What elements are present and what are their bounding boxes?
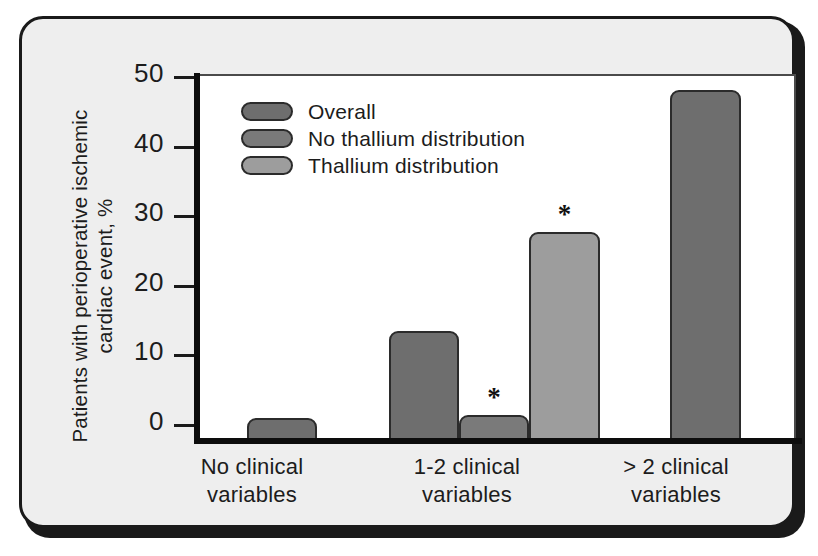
legend-swatch-thallium-distribution — [241, 156, 293, 175]
y-tick-10 — [174, 354, 196, 357]
x-axis-label-line-2: variables — [162, 481, 342, 509]
y-axis-title-line-1: Patients with perioperative ischemic — [67, 66, 92, 486]
chart-legend: Overall No thallium distribution Thalliu… — [241, 99, 525, 180]
bar-overall-1-2-clinical-variables — [389, 331, 459, 441]
legend-label-no-thallium-distribution: No thallium distribution — [308, 128, 525, 149]
y-tick-label-10: 10 — [104, 338, 164, 364]
y-tick-label-20: 20 — [104, 269, 164, 295]
bar-thallium-distribution-1-2-clinical-variables — [529, 232, 600, 441]
y-tick-label-40: 40 — [104, 130, 164, 156]
x-axis-label-1-2-clinical-variables: 1-2 clinical variables — [377, 453, 557, 509]
x-axis-label-line-1: 1-2 clinical — [377, 453, 557, 481]
y-tick-0 — [174, 424, 196, 427]
chart-panel: Patients with perioperative ischemic car… — [19, 16, 795, 528]
significance-asterisk-no-thallium: * — [459, 384, 529, 411]
bar-overall-gt-2-clinical-variables — [670, 90, 741, 441]
legend-item-thallium-distribution: Thallium distribution — [241, 153, 525, 178]
chart-figure: Patients with perioperative ischemic car… — [0, 0, 818, 556]
legend-item-overall: Overall — [241, 99, 525, 124]
x-axis-label-line-1: No clinical — [162, 453, 342, 481]
legend-item-no-thallium-distribution: No thallium distribution — [241, 126, 525, 151]
x-axis-label-line-2: variables — [377, 481, 557, 509]
x-axis-label-no-clinical-variables: No clinical variables — [162, 453, 342, 509]
y-axis-spine — [194, 73, 200, 444]
x-axis-label-line-2: variables — [586, 481, 766, 509]
y-tick-label-50: 50 — [104, 60, 164, 86]
y-tick-30 — [174, 215, 196, 218]
y-tick-50 — [174, 76, 196, 79]
y-tick-40 — [174, 146, 196, 149]
significance-asterisk-thallium: * — [529, 201, 600, 228]
y-tick-label-30: 30 — [104, 199, 164, 225]
x-axis-label-line-1: > 2 clinical — [586, 453, 766, 481]
legend-label-thallium-distribution: Thallium distribution — [308, 155, 499, 176]
plot-area: Overall No thallium distribution Thalliu… — [198, 74, 796, 441]
legend-swatch-no-thallium-distribution — [241, 129, 293, 148]
x-axis-label-gt-2-clinical-variables: > 2 clinical variables — [586, 453, 766, 509]
x-axis-baseline — [194, 438, 802, 444]
legend-swatch-overall — [241, 102, 293, 121]
legend-label-overall: Overall — [308, 101, 376, 122]
y-tick-label-0: 0 — [104, 408, 164, 434]
y-tick-20 — [174, 285, 196, 288]
